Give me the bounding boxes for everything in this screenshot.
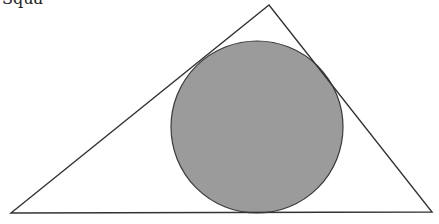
- figure-canvas: Squa: [0, 0, 439, 224]
- triangle-incircle-diagram: [0, 0, 439, 224]
